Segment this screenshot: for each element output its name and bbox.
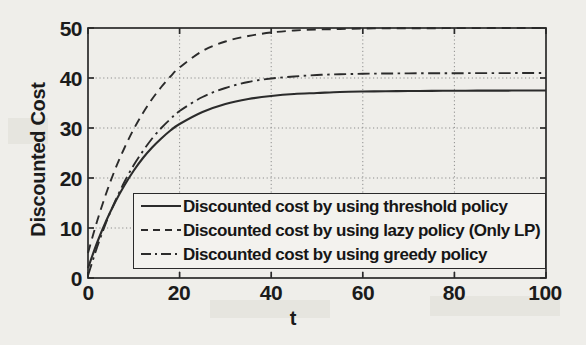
legend: Discounted cost by using threshold polic… bbox=[133, 193, 546, 269]
x-tick-label-0: 0 bbox=[58, 281, 118, 305]
legend-line-sample-dashdot bbox=[139, 243, 183, 265]
x-tick-label-100: 100 bbox=[513, 281, 577, 305]
x-tick-label-80: 80 bbox=[424, 281, 484, 305]
legend-label-greedy: Discounted cost by using greedy policy bbox=[183, 246, 487, 263]
chart-figure: 50 40 30 20 10 0 0 20 40 60 80 100 Disco… bbox=[0, 0, 586, 345]
legend-item-greedy: Discounted cost by using greedy policy bbox=[134, 242, 545, 266]
x-tick-label-20: 20 bbox=[149, 281, 209, 305]
x-axis-label: t bbox=[0, 307, 586, 330]
y-tick-label-50: 50 bbox=[6, 17, 82, 41]
legend-item-lazy: Discounted cost by using lazy policy (On… bbox=[134, 218, 545, 242]
x-tick-label-60: 60 bbox=[333, 281, 393, 305]
legend-label-lazy: Discounted cost by using lazy policy (On… bbox=[183, 222, 540, 239]
x-tick-label-40: 40 bbox=[241, 281, 301, 305]
legend-line-sample-solid bbox=[139, 195, 183, 217]
legend-line-sample-dashed bbox=[139, 219, 183, 241]
legend-item-threshold: Discounted cost by using threshold polic… bbox=[134, 194, 545, 218]
y-axis-label: Discounted Cost bbox=[27, 60, 50, 260]
legend-label-threshold: Discounted cost by using threshold polic… bbox=[183, 198, 507, 215]
